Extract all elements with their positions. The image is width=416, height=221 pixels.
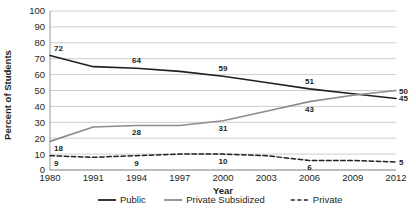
x-tick-label: 1997: [169, 172, 190, 183]
line-chart: 0102030405060708090100 19801991199419972…: [0, 0, 416, 221]
x-tick-label: 2009: [342, 172, 363, 183]
data-label: 50: [399, 87, 408, 96]
data-label: 64: [132, 56, 141, 65]
chart-legend: PublicPrivate SubsidizedPrivate: [98, 194, 342, 205]
y-tick-label: 100: [29, 5, 45, 16]
data-label: 51: [305, 77, 314, 86]
x-axis-tick-labels: 198019911994199720002003200620092012: [39, 172, 406, 183]
x-tick-label: 2003: [256, 172, 277, 183]
data-label: 9: [54, 159, 59, 168]
y-tick-label: 80: [34, 37, 45, 48]
data-label: 10: [219, 157, 228, 166]
chart-canvas: 0102030405060708090100 19801991199419972…: [0, 0, 416, 221]
data-label: 6: [307, 163, 312, 172]
data-label: 5: [399, 158, 404, 167]
y-axis-tick-labels: 0102030405060708090100: [29, 5, 45, 175]
x-tick-label: 1991: [83, 172, 104, 183]
data-label: 31: [219, 124, 228, 133]
x-tick-label: 1994: [126, 172, 147, 183]
data-label: 59: [219, 64, 228, 73]
y-tick-label: 20: [34, 133, 45, 144]
y-tick-label: 50: [34, 85, 45, 96]
data-label: 72: [54, 44, 63, 53]
x-tick-label: 2006: [299, 172, 320, 183]
y-axis-title: Percent of Students: [2, 50, 13, 140]
data-label: 45: [399, 94, 408, 103]
y-tick-label: 90: [34, 21, 45, 32]
data-label: 18: [54, 144, 63, 153]
x-tick-label: 2000: [212, 172, 233, 183]
y-tick-label: 40: [34, 101, 45, 112]
y-tick-label: 60: [34, 69, 45, 80]
legend-label: Private Subsidized: [186, 194, 265, 205]
x-tick-label: 1980: [39, 172, 60, 183]
legend-label: Private: [313, 194, 343, 205]
data-label: 43: [305, 105, 314, 114]
data-label: 28: [132, 128, 141, 137]
x-tick-label: 2012: [385, 172, 406, 183]
y-tick-label: 70: [34, 53, 45, 64]
legend-label: Public: [120, 194, 146, 205]
y-tick-label: 30: [34, 117, 45, 128]
y-tick-label: 10: [34, 149, 45, 160]
data-label: 9: [134, 159, 139, 168]
